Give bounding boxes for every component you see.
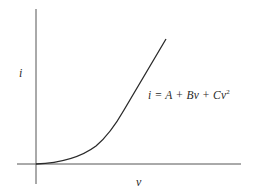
equation-exponent: 2 [226,88,230,96]
iv-curve [36,39,166,164]
x-axis-label: v [136,176,141,188]
equation-text: i = A + Bv + Cv [148,89,226,101]
equation-label: i = A + Bv + Cv2 [148,89,230,102]
y-axis-label: i [19,67,22,79]
iv-diagram: i v i = A + Bv + Cv2 [0,0,256,194]
